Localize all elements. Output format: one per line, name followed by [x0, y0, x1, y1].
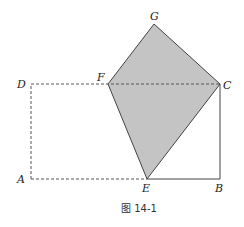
label-f: F	[96, 71, 105, 84]
geometry-figure: G F D C A E B 图 14-1	[0, 0, 244, 227]
figure-caption: 图 14-1	[121, 203, 157, 214]
label-d: D	[16, 78, 26, 91]
shaded-region	[108, 24, 220, 179]
label-a: A	[16, 173, 25, 186]
label-c: C	[223, 79, 232, 92]
label-g: G	[150, 10, 159, 23]
label-e: E	[141, 182, 150, 195]
label-b: B	[214, 182, 223, 195]
